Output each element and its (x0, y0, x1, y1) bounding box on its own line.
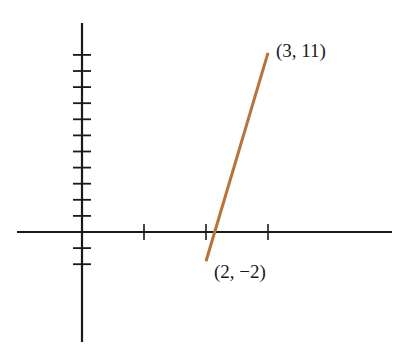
coordinate-plot: (3, 11) (2, −2) (0, 0, 407, 354)
line-segment (206, 53, 268, 261)
point-label-top: (3, 11) (276, 40, 326, 62)
series (206, 53, 268, 261)
point-label-bottom: (2, −2) (214, 261, 266, 283)
